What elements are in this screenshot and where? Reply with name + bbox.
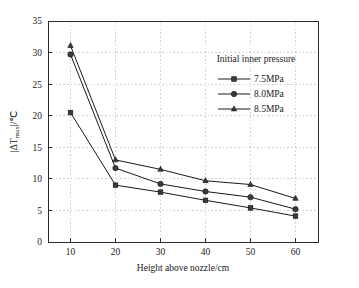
y-tick-label: 20 [33,111,43,121]
line-chart: 05101520253035 102030405060 Initial inne… [0,0,359,288]
data-point-8-5MPa-20 [113,157,118,162]
legend-item-7-5MPa[interactable]: 7.5MPa [218,74,285,84]
x-tick-label: 40 [201,247,211,257]
x-tick-labels: 102030405060 [66,247,301,257]
legend-marker-circle [231,91,236,96]
legend-label: 8.0MPa [254,89,285,99]
data-series [68,43,298,219]
data-point-7-5MPa-40 [203,198,208,203]
y-tick-label: 0 [37,237,42,247]
y-tick-label: 30 [33,48,43,58]
legend-label: 8.5MPa [254,104,285,114]
x-tick-label: 20 [111,247,121,257]
legend: Initial inner pressure7.5MPa8.0MPa8.5MPa [217,54,296,114]
legend-marker-square [232,77,237,82]
y-tick-label: 5 [37,206,42,216]
x-tick-label: 50 [246,247,256,257]
y-tick-labels: 05101520253035 [33,16,43,247]
series-8-5MPa [68,43,298,201]
data-point-7-5MPa-30 [158,190,163,195]
y-axis-title-prefix: |ΔT [9,138,19,152]
y-axis-title-subscript: max [13,126,21,139]
data-point-8-0MPa-50 [248,194,253,199]
data-point-8-0MPa-60 [293,206,298,211]
y-axis-title-suffix: |/℃ [9,111,19,127]
series-line-8-5MPa [71,46,296,199]
data-point-7-5MPa-20 [113,183,118,188]
figure-container: 05101520253035 102030405060 Initial inne… [0,0,359,288]
data-point-7-5MPa-60 [293,214,298,219]
data-point-8-0MPa-10 [68,52,73,57]
x-tick-label: 10 [66,247,76,257]
data-point-8-0MPa-20 [113,165,118,170]
y-axis-title: |ΔTmax|/℃ [9,111,21,152]
y-tick-label: 10 [33,174,43,184]
data-point-7-5MPa-10 [68,110,73,115]
legend-marker-triangle [231,106,236,111]
legend-item-8-5MPa[interactable]: 8.5MPa [218,104,285,114]
x-axis-title: Height above nozzle/cm [137,263,230,273]
legend-label: 7.5MPa [254,74,285,84]
data-point-8-0MPa-40 [203,189,208,194]
legend-title: Initial inner pressure [217,54,296,64]
y-tick-label: 25 [33,80,43,90]
data-point-8-5MPa-10 [68,43,73,48]
y-tick-label: 15 [33,143,43,153]
x-tick-label: 30 [156,247,166,257]
x-tick-label: 60 [291,247,301,257]
y-tick-label: 35 [33,16,43,26]
legend-item-8-0MPa[interactable]: 8.0MPa [218,89,285,99]
data-point-8-0MPa-30 [158,181,163,186]
data-point-7-5MPa-50 [248,206,253,211]
